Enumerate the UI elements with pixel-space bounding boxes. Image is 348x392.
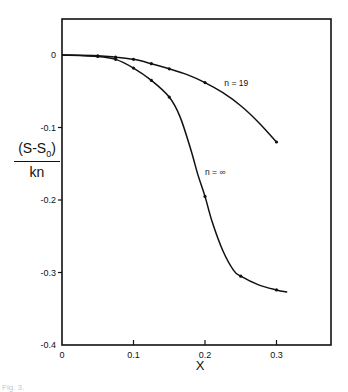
y-axis-label-denominator: kn xyxy=(14,162,60,179)
y-tick-label: -0.1 xyxy=(40,123,56,133)
data-point-marker xyxy=(168,67,171,70)
annotation-n-19: n = 19 xyxy=(224,78,248,88)
figure-caption: Fig. 3. xyxy=(2,383,24,392)
y-tick-label: 0 xyxy=(51,50,56,60)
data-curves xyxy=(62,55,287,292)
curve-n-infinity xyxy=(62,55,287,292)
annotation-n-infinity: n = ∞ xyxy=(205,167,225,177)
data-point-marker xyxy=(132,58,135,61)
line-chart: 00.10.20.3 0-0.1-0.2-0.3-0.4 n = 19n = ∞… xyxy=(0,0,348,392)
x-axis-label: X xyxy=(196,358,205,373)
data-point-marker xyxy=(96,55,99,58)
y-tick-label: -0.2 xyxy=(40,195,56,205)
y-axis-label-numerator: (S-S0) xyxy=(14,141,60,162)
data-point-marker xyxy=(150,62,153,65)
x-tick-label: 0.3 xyxy=(270,350,283,360)
curve-annotations: n = 19n = ∞ xyxy=(205,78,248,178)
y-axis-label: (S-S0) kn xyxy=(14,141,60,179)
data-point-marker xyxy=(132,66,135,69)
data-point-marker xyxy=(168,95,171,98)
data-point-marker xyxy=(114,58,117,61)
data-point-marker xyxy=(239,275,242,278)
data-markers xyxy=(96,54,278,291)
x-axis-ticks: 00.10.20.3 xyxy=(59,340,282,360)
data-point-marker xyxy=(203,195,206,198)
x-tick-label: 0.1 xyxy=(127,350,140,360)
y-axis-ticks: 0-0.1-0.2-0.3-0.4 xyxy=(40,50,62,350)
data-point-marker xyxy=(275,140,278,143)
y-tick-label: -0.3 xyxy=(40,268,56,278)
plot-frame xyxy=(62,19,331,345)
data-point-marker xyxy=(203,81,206,84)
x-tick-label: 0 xyxy=(59,350,64,360)
data-point-marker xyxy=(150,79,153,82)
y-tick-label: -0.4 xyxy=(40,340,56,350)
data-point-marker xyxy=(275,288,278,291)
